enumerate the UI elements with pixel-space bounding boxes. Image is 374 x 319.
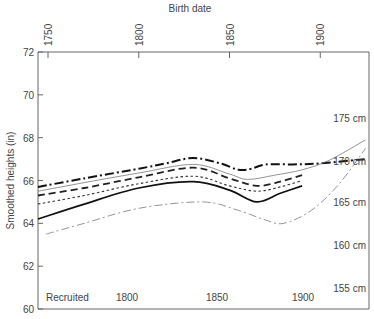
y-tick-label: 72	[23, 47, 35, 58]
cm-label: 170 cm	[333, 156, 366, 167]
axis-labels: 606264666870721750180018501900Birth date…	[5, 3, 366, 315]
cm-label: 155 cm	[333, 283, 366, 294]
y-axis-title: Smoothed heights (in)	[5, 132, 16, 230]
y-tick-label: 60	[23, 304, 35, 315]
series-3-thick-dashed	[38, 168, 302, 196]
height-chart: 606264666870721750180018501900Birth date…	[0, 0, 374, 319]
y-tick-label: 70	[23, 90, 35, 101]
series-2-thin-solid	[38, 140, 366, 191]
top-x-tick-label: 1800	[134, 23, 145, 46]
cm-label: 165 cm	[333, 197, 366, 208]
top-x-tick-label: 1850	[225, 23, 236, 46]
top-x-tick-label: 1900	[315, 23, 326, 46]
y-tick-label: 66	[23, 176, 35, 187]
bottom-x-axis-title: Recruited	[46, 292, 89, 303]
cm-label: 175 cm	[333, 113, 366, 124]
bottom-x-tick-label: 1850	[206, 292, 229, 303]
series-6-grey-dashdot	[46, 148, 365, 234]
y-tick-label: 68	[23, 133, 35, 144]
cm-label: 160 cm	[333, 240, 366, 251]
top-x-axis-title: Birth date	[169, 3, 212, 14]
top-x-tick-label: 1750	[43, 23, 54, 46]
bottom-x-tick-label: 1800	[116, 292, 139, 303]
series-lines	[38, 140, 366, 234]
axes	[38, 52, 369, 309]
y-tick-label: 64	[23, 218, 35, 229]
series-5-thick-solid	[38, 182, 302, 219]
bottom-x-tick-label: 1900	[292, 292, 315, 303]
y-tick-label: 62	[23, 261, 35, 272]
